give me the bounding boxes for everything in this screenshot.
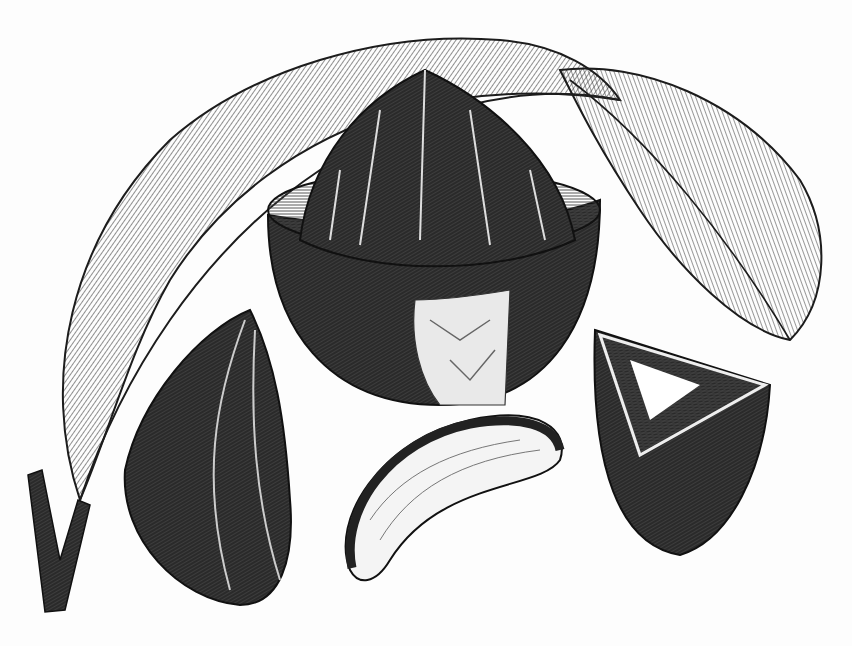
brazil-nut-engraving: [0, 0, 852, 646]
nut-in-shell: [125, 310, 291, 605]
nut-cross-section: [594, 330, 770, 555]
kernel: [346, 416, 562, 581]
